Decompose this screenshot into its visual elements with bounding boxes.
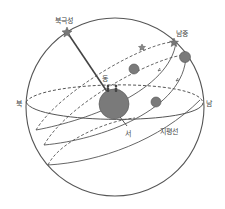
diagram-canvas (0, 0, 225, 209)
label-north: 북 (16, 100, 22, 108)
polaris-star-icon (62, 27, 72, 37)
sun-position-upper (180, 52, 191, 63)
sun-position-lower (151, 97, 161, 107)
label-west: 서 (125, 130, 131, 138)
polaris-axis-line (67, 32, 108, 93)
celestial-sphere-diagram: 북극성 남중 동 서 남 북 지평선 (0, 0, 225, 209)
label-polaris: 북극성 (55, 17, 73, 25)
label-south: 남 (206, 100, 212, 108)
direction-arrow-icon (158, 68, 161, 71)
culmination-star-icon (170, 38, 179, 47)
direction-arrow-icon (176, 78, 179, 81)
sun-position-middle (129, 64, 139, 74)
star-icon (139, 44, 146, 51)
earth-circle (99, 89, 129, 119)
label-east: 동 (102, 75, 108, 83)
label-horizon: 지평선 (160, 128, 178, 136)
label-culmination: 남중 (176, 30, 188, 38)
